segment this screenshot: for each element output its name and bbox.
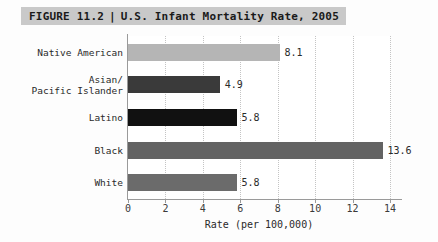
gridline-x-10 bbox=[315, 36, 316, 199]
bar-value-label: 4.9 bbox=[220, 76, 243, 93]
y-axis-label: White bbox=[3, 177, 123, 188]
x-axis-line bbox=[127, 199, 402, 200]
x-tick-label: 4 bbox=[200, 203, 206, 214]
bar bbox=[128, 109, 237, 126]
x-tick-label: 0 bbox=[125, 203, 131, 214]
bar bbox=[128, 174, 237, 191]
x-tick-label: 8 bbox=[275, 203, 281, 214]
y-axis-label: Asian/ Pacific Islander bbox=[3, 74, 123, 96]
gridline-x-12 bbox=[353, 36, 354, 199]
bar bbox=[128, 142, 383, 159]
x-axis-title: Rate (per 100,000) bbox=[128, 219, 390, 230]
figure-title-band: FIGURE 11.2 | U.S. Infant Mortality Rate… bbox=[21, 7, 346, 25]
figure-number: FIGURE 11.2 bbox=[29, 11, 104, 22]
page-title: U.S. Infant Mortality Rate, 2005 bbox=[121, 11, 339, 22]
y-axis-label: Native American bbox=[3, 47, 123, 58]
bar bbox=[128, 44, 280, 61]
bar-value-label: 5.8 bbox=[237, 174, 260, 191]
y-axis-line bbox=[127, 34, 128, 200]
bar-value-label: 13.6 bbox=[383, 142, 412, 159]
title-separator: | bbox=[109, 10, 116, 23]
gridline-x-14 bbox=[390, 36, 391, 199]
bar-value-label: 8.1 bbox=[280, 44, 303, 61]
bar-value-label: 5.8 bbox=[237, 109, 260, 126]
plot-area: 8.14.95.813.65.8 bbox=[128, 36, 390, 199]
x-tick-label: 14 bbox=[384, 203, 396, 214]
figure-container: FIGURE 11.2 | U.S. Infant Mortality Rate… bbox=[0, 0, 438, 242]
x-tick-label: 10 bbox=[309, 203, 321, 214]
x-tick-label: 6 bbox=[237, 203, 243, 214]
y-axis-label: Latino bbox=[3, 112, 123, 123]
y-axis-label: Black bbox=[3, 145, 123, 156]
x-tick-label: 12 bbox=[347, 203, 359, 214]
bar bbox=[128, 76, 220, 93]
x-tick-label: 2 bbox=[162, 203, 168, 214]
y-axis-category-labels: Native AmericanAsian/ Pacific IslanderLa… bbox=[0, 36, 123, 199]
